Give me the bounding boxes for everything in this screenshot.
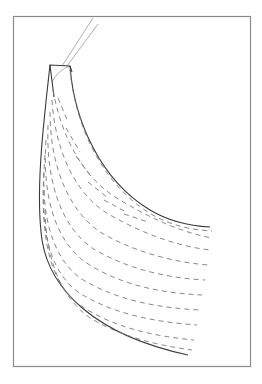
outer-edge	[39, 65, 188, 355]
stem-lines	[52, 18, 98, 82]
dashed-contours	[43, 70, 212, 350]
diagram-canvas	[0, 0, 262, 384]
inner-edge	[70, 66, 210, 227]
